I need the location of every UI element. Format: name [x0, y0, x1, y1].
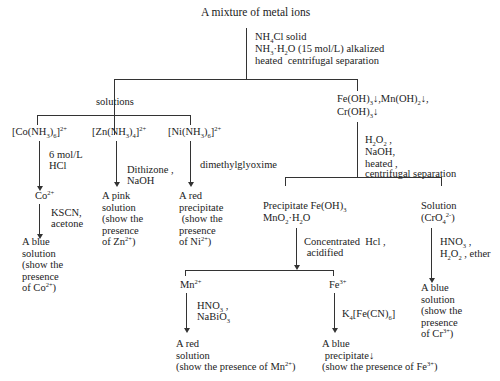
- reagent-naoh2: NaOH,: [365, 146, 395, 158]
- reagent-acetone: acetone: [51, 218, 83, 230]
- reagent-hno3: HNO3 ,: [197, 300, 228, 312]
- arrow: [431, 228, 432, 279]
- co-ion: Co2+: [35, 190, 54, 202]
- mn-ion: Mn2+: [180, 279, 202, 291]
- reagent-conc-hcl: Concentrated Hcl ,: [304, 236, 386, 248]
- fe-result: A blue precipitate↓ (show the presence o…: [322, 338, 437, 373]
- arrow: [190, 141, 191, 183]
- arrow: [39, 204, 40, 235]
- connector-line: [441, 177, 442, 186]
- reagent-naoh: NaOH: [127, 175, 154, 187]
- reagent-hcl: HCl: [49, 160, 67, 172]
- fe-ion: Fe3+: [329, 279, 346, 291]
- reagent-k4fecn6: K4[Fe(CN)6]: [342, 308, 395, 320]
- connector-line: [37, 115, 38, 125]
- reagent-6mol: 6 mol/L: [49, 149, 83, 161]
- reagent-hno3-2: HNO3 ,: [440, 236, 471, 248]
- split-line: [285, 177, 442, 178]
- reagent-acidified: acidified: [304, 247, 343, 259]
- arrow: [116, 141, 117, 183]
- split-line: [37, 115, 191, 116]
- solutions-label: solutions: [96, 96, 134, 108]
- co-result: A blue solution (show the presence of Co…: [22, 236, 63, 294]
- ni-result: A red precipitate (show the presence of …: [179, 190, 223, 248]
- zn-result: A pink solution (show the presence of Zn…: [102, 190, 143, 248]
- hydroxides-label-2: Cr(OH)3↓: [337, 106, 378, 118]
- connector-line: [246, 28, 247, 80]
- precipitate-label: Precipitate Fe(OH)3: [263, 200, 346, 212]
- reagent-heated: heated centrifugal separation: [255, 55, 379, 67]
- precipitate-label-2: MnO2·H2O: [263, 212, 310, 224]
- reagent-kscn: KSCN,: [51, 207, 82, 219]
- connector-line: [357, 122, 358, 177]
- arrow: [39, 141, 40, 187]
- ni-complex: [Ni(NH3)6]2+: [168, 126, 221, 138]
- reagent-dithizone: Dithizone ,: [127, 164, 174, 176]
- arrow: [296, 228, 297, 266]
- arrow: [186, 293, 187, 329]
- reagent-nabio3: NaBiO3: [197, 311, 230, 323]
- reagent-h2o2-ether: H2O2 , ether: [440, 248, 491, 260]
- reagent-h2o2: H2O2 ,: [365, 134, 392, 146]
- connector-line: [285, 177, 286, 186]
- cr-result: A blue solution (show the presence of Cr…: [421, 282, 462, 340]
- mn-result: A red solution (show the presence of Mn2…: [176, 338, 295, 373]
- connector-line: [190, 115, 191, 125]
- connector-line: [185, 270, 186, 276]
- connector-line: [333, 270, 334, 276]
- reagent-nh3h2o: NH3·H2O (15 mol/L) alkalized: [255, 43, 384, 55]
- hydroxides-label: Fe(OH)3↓,Mn(OH)2↓,: [337, 93, 429, 105]
- diagram-title: A mixture of metal ions: [201, 7, 310, 19]
- split-line: [114, 79, 358, 80]
- split-line: [185, 270, 334, 271]
- connector-line: [357, 79, 358, 91]
- chromate-label: (CrO42-): [421, 212, 455, 224]
- arrow: [334, 293, 335, 329]
- reagent-dimethylglyoxime: dimethylglyoxime: [200, 159, 277, 171]
- co-complex: [Co(NH3)6]2+: [12, 126, 67, 138]
- reagent-nh4cl: NH4Cl solid: [255, 31, 306, 43]
- zn-complex: [Zn(NH3)4]2+: [92, 126, 146, 138]
